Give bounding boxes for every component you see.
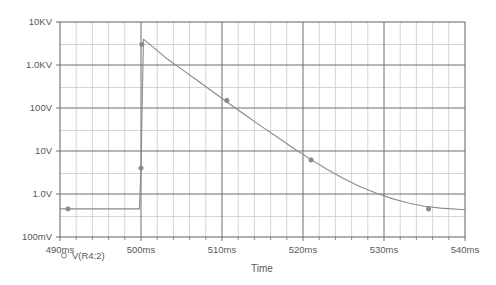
x-tick-label: 540ms [451, 244, 480, 255]
data-point-marker [140, 42, 144, 46]
y-tick-label: 100V [30, 102, 53, 113]
y-tick-label: 100mV [22, 231, 53, 242]
y-tick-label: 1.0V [32, 188, 52, 199]
data-point-marker [309, 158, 313, 162]
x-tick-label: 490ms [46, 244, 75, 255]
spice-plot-container: 10KV1.0KV100V10V1.0V100mV 490ms500ms510m… [0, 0, 496, 285]
plot-area-background [60, 22, 465, 237]
x-tick-label: 500ms [127, 244, 156, 255]
x-axis-ticks [60, 237, 465, 241]
y-tick-label: 1.0KV [26, 59, 53, 70]
data-point-marker [66, 207, 70, 211]
data-point-marker [139, 166, 143, 170]
y-axis-ticks [56, 22, 60, 237]
waveform-chart: 10KV1.0KV100V10V1.0V100mV 490ms500ms510m… [0, 0, 496, 285]
y-tick-label: 10V [35, 145, 53, 156]
y-axis-tick-labels: 10KV1.0KV100V10V1.0V100mV [22, 16, 53, 242]
data-point-marker [225, 98, 229, 102]
data-point-marker [426, 207, 430, 211]
x-tick-label: 520ms [289, 244, 318, 255]
legend-label: V(R4:2) [72, 250, 105, 261]
x-axis-tick-labels: 490ms500ms510ms520ms530ms540ms [46, 244, 480, 255]
x-axis-title: Time [251, 263, 273, 274]
y-tick-label: 10KV [29, 16, 53, 27]
x-tick-label: 510ms [208, 244, 237, 255]
x-tick-label: 530ms [370, 244, 399, 255]
